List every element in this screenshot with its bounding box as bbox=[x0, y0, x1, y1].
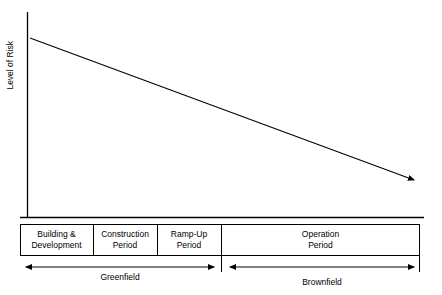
band-label-greenfield: Greenfield bbox=[20, 272, 220, 282]
phase-label-operation-period: Operation Period bbox=[221, 229, 420, 250]
phase-label-ramp-up-period: Ramp-Up Period bbox=[157, 229, 221, 250]
risk-phase-diagram: Level of Risk Building & Development Con… bbox=[0, 0, 442, 295]
phase-label-building-development: Building & Development bbox=[20, 229, 93, 250]
y-axis-title: Level of Risk bbox=[6, 29, 15, 101]
band-label-brownfield: Brownfield bbox=[226, 277, 418, 287]
risk-trend-line bbox=[30, 38, 414, 180]
phase-label-construction-period: Construction Period bbox=[93, 229, 157, 250]
diagram-canvas bbox=[0, 0, 442, 295]
